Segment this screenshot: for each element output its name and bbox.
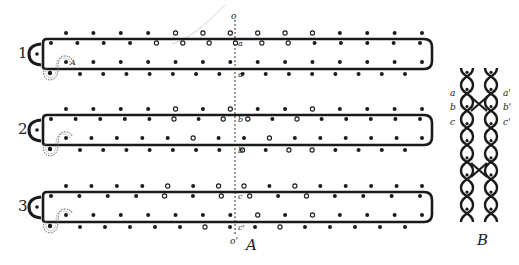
filled-marker bbox=[178, 225, 182, 229]
filled-marker bbox=[119, 31, 123, 35]
panel-a: 1Aaa'2bb'3cc' bbox=[18, 31, 432, 233]
filled-marker bbox=[393, 60, 397, 64]
filled-marker bbox=[101, 148, 105, 152]
filled-marker bbox=[276, 194, 280, 198]
open-marker bbox=[293, 184, 297, 188]
panel-b: abca'b'c' bbox=[450, 68, 511, 222]
strand-row-1: 1Aaa' bbox=[18, 31, 432, 80]
filled-marker bbox=[338, 107, 342, 111]
open-marker bbox=[310, 213, 314, 217]
panel-a-label: A bbox=[244, 236, 257, 254]
filled-marker bbox=[353, 225, 357, 229]
axis-bottom-label: o' bbox=[230, 236, 238, 246]
centromere-dot bbox=[35, 205, 39, 209]
filled-marker bbox=[217, 148, 221, 152]
upper-locus-label: a bbox=[238, 39, 243, 48]
open-marker bbox=[181, 41, 185, 45]
open-marker bbox=[246, 117, 250, 121]
open-marker bbox=[172, 117, 176, 121]
axis-top-label: o bbox=[231, 11, 237, 21]
filled-marker bbox=[270, 117, 274, 121]
filled-marker bbox=[148, 72, 152, 76]
strand-dot bbox=[465, 208, 468, 211]
filled-marker bbox=[393, 117, 397, 121]
lower-locus-label: b' bbox=[238, 146, 245, 155]
open-marker bbox=[201, 31, 205, 35]
filled-marker bbox=[303, 225, 307, 229]
centromere-dot bbox=[35, 128, 39, 132]
filled-marker bbox=[217, 136, 221, 140]
filled-marker bbox=[146, 31, 150, 35]
filled-marker bbox=[146, 213, 150, 217]
filled-marker bbox=[174, 60, 178, 64]
filled-marker bbox=[89, 184, 93, 188]
filled-marker bbox=[420, 136, 424, 140]
open-marker bbox=[256, 31, 260, 35]
filled-marker bbox=[91, 213, 95, 217]
filled-marker bbox=[102, 41, 106, 45]
open-marker bbox=[260, 41, 264, 45]
open-marker bbox=[256, 213, 260, 217]
filled-marker bbox=[49, 41, 53, 45]
filled-marker bbox=[201, 213, 205, 217]
strand-left-end bbox=[43, 192, 55, 222]
filled-marker bbox=[134, 194, 138, 198]
filled-marker bbox=[283, 60, 287, 64]
filled-marker bbox=[101, 72, 105, 76]
filled-marker bbox=[380, 72, 384, 76]
strand-dot bbox=[489, 88, 492, 91]
filled-marker bbox=[64, 213, 68, 217]
filled-marker bbox=[171, 148, 175, 152]
filled-marker bbox=[369, 117, 373, 121]
open-marker bbox=[228, 31, 232, 35]
filled-marker bbox=[344, 136, 348, 140]
strand-dot bbox=[489, 208, 492, 211]
filled-marker bbox=[393, 213, 397, 217]
filled-marker bbox=[339, 41, 343, 45]
filled-marker bbox=[395, 184, 399, 188]
filled-marker bbox=[357, 148, 361, 152]
strand-dot bbox=[465, 122, 468, 125]
filled-marker bbox=[313, 41, 317, 45]
filled-marker bbox=[191, 194, 195, 198]
filled-marker bbox=[146, 107, 150, 111]
filled-marker bbox=[420, 184, 424, 188]
filled-marker bbox=[365, 213, 369, 217]
filled-marker bbox=[393, 107, 397, 111]
open-marker bbox=[203, 225, 207, 229]
filled-marker bbox=[420, 31, 424, 35]
filled-marker bbox=[256, 60, 260, 64]
filled-marker bbox=[128, 225, 132, 229]
marker-letter: A bbox=[69, 58, 76, 67]
filled-marker bbox=[228, 213, 232, 217]
strand-dot bbox=[489, 71, 492, 74]
filled-marker bbox=[393, 31, 397, 35]
open-marker bbox=[233, 41, 237, 45]
filled-marker bbox=[390, 194, 394, 198]
filled-marker bbox=[98, 117, 102, 121]
chromosome-diagram: o o' 1Aaa'2bb'3cc' A abca'b'c' B bbox=[0, 0, 519, 265]
filled-marker bbox=[64, 184, 68, 188]
twisted-strand-right bbox=[485, 68, 497, 222]
filled-marker bbox=[418, 41, 422, 45]
strand-dot bbox=[465, 88, 468, 91]
filled-marker bbox=[106, 194, 110, 198]
filled-marker bbox=[194, 148, 198, 152]
filled-marker bbox=[283, 213, 287, 217]
filled-marker bbox=[338, 213, 342, 217]
filled-marker bbox=[338, 31, 342, 35]
filled-marker bbox=[395, 136, 399, 140]
lower-locus-label: c' bbox=[238, 223, 245, 232]
filled-marker bbox=[264, 72, 268, 76]
centromere-bracket bbox=[29, 120, 41, 141]
open-marker bbox=[278, 225, 282, 229]
filled-marker bbox=[201, 107, 205, 111]
filled-marker bbox=[166, 136, 170, 140]
strand-dot bbox=[489, 156, 492, 159]
filled-marker bbox=[320, 117, 324, 121]
open-marker bbox=[267, 136, 271, 140]
filled-marker bbox=[310, 72, 314, 76]
filled-marker bbox=[103, 225, 107, 229]
filled-marker bbox=[153, 225, 157, 229]
filled-marker bbox=[420, 107, 424, 111]
